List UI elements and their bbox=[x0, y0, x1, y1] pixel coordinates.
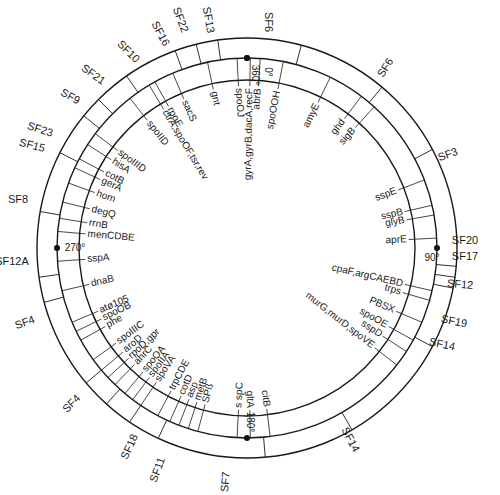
gene-leader bbox=[83, 284, 89, 285]
gene-leader bbox=[100, 327, 105, 330]
gene-tick bbox=[179, 405, 187, 426]
sf-label: SF6 bbox=[263, 12, 275, 32]
sf-label: SF23 bbox=[26, 119, 55, 139]
gene-tick bbox=[141, 387, 153, 405]
gene-tick bbox=[130, 98, 144, 115]
segment-tick bbox=[130, 406, 141, 423]
gene-leader bbox=[396, 311, 402, 313]
gene-leader bbox=[398, 188, 404, 190]
gene-leader bbox=[95, 177, 100, 180]
gene-tick bbox=[101, 356, 118, 370]
gene-tick bbox=[125, 377, 139, 394]
segment-tick bbox=[39, 274, 59, 277]
segment-tick bbox=[369, 87, 382, 102]
gene-tick bbox=[155, 82, 166, 101]
gene-leader bbox=[179, 396, 181, 401]
sf-label: SF12A bbox=[0, 255, 29, 267]
sf-label: SF19 bbox=[440, 312, 468, 329]
gene-leader bbox=[99, 169, 104, 172]
gene-tick bbox=[237, 416, 238, 438]
sf-label: SF12 bbox=[446, 277, 473, 291]
gene-tick bbox=[411, 286, 432, 291]
gene-tick bbox=[76, 322, 96, 332]
gene-label: dnaB bbox=[90, 272, 116, 288]
gene-leader bbox=[139, 372, 143, 377]
segment-tick bbox=[84, 116, 100, 129]
degree-dot-icon bbox=[54, 245, 60, 251]
degree-label: 0° bbox=[263, 67, 274, 77]
gene-leader bbox=[166, 101, 169, 106]
gene-leader bbox=[130, 365, 134, 369]
gene-tick bbox=[75, 168, 95, 177]
gene-leader bbox=[89, 191, 95, 193]
gene-leader bbox=[405, 210, 411, 211]
degree-label: 270° bbox=[65, 242, 86, 253]
sf-label: SF11 bbox=[147, 456, 167, 484]
gene-label: citB bbox=[260, 389, 273, 407]
gene-tick bbox=[402, 314, 422, 323]
sf-label: SF18 bbox=[118, 432, 140, 461]
gene-leader bbox=[153, 382, 156, 387]
gene-tick bbox=[237, 58, 238, 80]
gene-leader bbox=[204, 404, 206, 410]
gene-tick bbox=[79, 159, 98, 169]
segment-tick bbox=[106, 389, 119, 404]
sf-label: SF13 bbox=[201, 6, 217, 34]
gene-leader bbox=[407, 219, 413, 220]
gene-tick bbox=[108, 363, 124, 378]
gene-leader bbox=[96, 319, 101, 322]
gene-tick bbox=[379, 351, 396, 365]
gene-tick bbox=[115, 369, 130, 385]
gene-label: amyE bbox=[300, 101, 321, 129]
segment-tick bbox=[196, 44, 201, 63]
gene-tick bbox=[59, 218, 81, 221]
gene-leader bbox=[212, 84, 213, 90]
segment-tick bbox=[127, 76, 138, 92]
gene-tick bbox=[170, 401, 179, 421]
degree-label: 360° bbox=[250, 65, 261, 86]
gene-leader bbox=[375, 348, 380, 352]
segment-tick bbox=[264, 437, 266, 457]
gene-tick bbox=[321, 77, 331, 97]
gene-tick bbox=[388, 339, 406, 351]
gene-tick bbox=[173, 73, 182, 93]
gene-leader bbox=[389, 327, 394, 330]
degree-dot-icon bbox=[434, 245, 440, 251]
gene-label: sspA bbox=[87, 251, 110, 264]
gene-tick bbox=[279, 61, 283, 83]
sf-label: SF8 bbox=[8, 193, 28, 205]
gene-leader bbox=[403, 293, 409, 295]
segment-tick bbox=[218, 40, 221, 60]
gene-tick bbox=[95, 134, 113, 147]
degree-dot-icon bbox=[244, 55, 250, 61]
segment-tick bbox=[40, 212, 60, 215]
gene-leader bbox=[195, 402, 197, 408]
gene-leader bbox=[181, 93, 183, 99]
gene-leader bbox=[84, 207, 90, 208]
gene-label: aprE bbox=[385, 233, 407, 245]
gene-label: menCDBE bbox=[87, 228, 135, 243]
gene-tick bbox=[348, 96, 361, 114]
sf-label: SF22 bbox=[171, 5, 191, 34]
sf-label: SF10 bbox=[115, 38, 142, 65]
sf-label: SF4 bbox=[60, 392, 83, 415]
gene-tick bbox=[267, 415, 270, 437]
sf-label: SF7 bbox=[218, 471, 232, 492]
gene-label: gnt bbox=[209, 90, 223, 106]
gene-leader bbox=[278, 83, 279, 89]
genetic-map: abrBgyrA,gyrB,dacA,recFspoOJgntsacSrpoEc… bbox=[0, 0, 500, 495]
gene-label: spoOJ bbox=[234, 88, 246, 117]
gene-leader bbox=[160, 104, 163, 109]
gene-tick bbox=[411, 205, 432, 210]
gene-leader bbox=[383, 336, 388, 339]
gene-leader bbox=[111, 343, 116, 347]
segment-tick bbox=[158, 420, 166, 438]
gene-leader bbox=[80, 233, 86, 234]
gene-tick bbox=[93, 347, 111, 360]
degree-dot-icon bbox=[244, 435, 250, 441]
gene-label: cpaF,argCAEBD bbox=[331, 261, 404, 288]
sf-label: SF4 bbox=[13, 313, 36, 331]
gene-tick bbox=[57, 260, 79, 262]
gene-tick bbox=[188, 408, 195, 429]
gene-label: spoOOH bbox=[264, 90, 282, 130]
